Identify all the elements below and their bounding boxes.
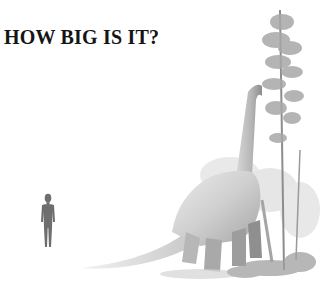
human-silhouette — [41, 194, 55, 247]
dinosaur-illustration — [80, 85, 262, 272]
tree-illustration — [262, 10, 304, 270]
size-comparison-illustration — [0, 0, 330, 291]
